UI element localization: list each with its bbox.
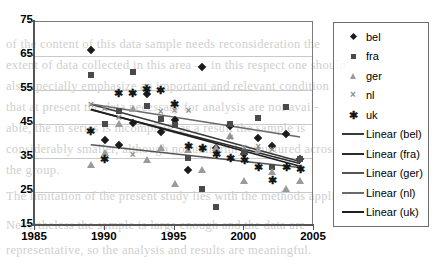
- line-swatch: [340, 172, 366, 174]
- legend-line-swatch: [342, 211, 364, 213]
- legend-line-swatch: [342, 153, 364, 155]
- legend-square-marker: [351, 54, 356, 59]
- x-axis-tick-mark: [243, 225, 244, 230]
- chart-figure: of the content of this data sample needs…: [0, 0, 435, 261]
- legend-item-label: Linear (fra): [366, 148, 420, 160]
- asterisk-marker: ✱: [340, 110, 366, 120]
- x-axis-tick-label: 2000: [230, 230, 256, 242]
- legend-item-linearfra[interactable]: Linear (fra): [334, 144, 428, 164]
- x-axis-tick-mark: [104, 225, 105, 230]
- line-swatch: [340, 211, 366, 213]
- x-marker: ×: [340, 90, 366, 100]
- legend-line-swatch: [342, 172, 364, 174]
- legend-item-fra[interactable]: fra: [334, 47, 428, 67]
- legend-asterisk-marker: ✱: [349, 110, 358, 120]
- line-swatch: [340, 192, 366, 194]
- x-axis-tick-mark: [34, 225, 35, 230]
- x-axis-tick-mark: [313, 225, 314, 230]
- legend-item-label: Linear (bel): [366, 128, 422, 140]
- legend-item-label: bel: [366, 31, 381, 43]
- legend-diamond-marker: [349, 33, 356, 40]
- chart-legend: belfrager×nl✱ukLinear (bel)Linear (fra)L…: [333, 22, 429, 227]
- legend-item-label: uk: [366, 109, 378, 121]
- legend-item-nl[interactable]: ×nl: [334, 86, 428, 106]
- legend-item-bel[interactable]: bel: [334, 27, 428, 47]
- legend-item-linearnl[interactable]: Linear (nl): [334, 183, 428, 203]
- legend-item-label: Linear (uk): [366, 206, 419, 218]
- legend-item-label: Linear (nl): [366, 187, 416, 199]
- legend-item-linearbel[interactable]: Linear (bel): [334, 125, 428, 145]
- legend-x-marker: ×: [350, 90, 356, 100]
- x-axis-tick-label: 1985: [21, 230, 47, 242]
- line-swatch: [340, 153, 366, 155]
- legend-item-linearuk[interactable]: Linear (uk): [334, 203, 428, 223]
- square-marker: [340, 54, 366, 59]
- legend-line-swatch: [342, 192, 364, 194]
- x-axis-tick-label: 1990: [91, 230, 117, 242]
- legend-item-label: fra: [366, 50, 379, 62]
- legend-item-uk[interactable]: ✱uk: [334, 105, 428, 125]
- x-axis-tick-label: 2005: [300, 230, 326, 242]
- triangle-marker: [340, 73, 366, 79]
- x-axis-tick-mark: [174, 225, 175, 230]
- line-swatch: [340, 133, 366, 135]
- legend-item-ger[interactable]: ger: [334, 66, 428, 86]
- legend-item-label: nl: [366, 89, 375, 101]
- legend-line-swatch: [342, 133, 364, 135]
- legend-item-linearger[interactable]: Linear (ger): [334, 164, 428, 184]
- legend-triangle-marker: [350, 73, 356, 79]
- legend-item-label: ger: [366, 70, 382, 82]
- diamond-marker: [340, 34, 366, 39]
- legend-item-label: Linear (ger): [366, 167, 423, 179]
- x-axis-tick-label: 1995: [161, 230, 187, 242]
